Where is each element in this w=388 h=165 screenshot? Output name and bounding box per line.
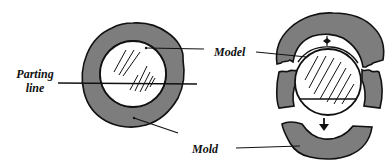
model-label: Model <box>214 45 245 59</box>
model-circle-right <box>295 49 361 115</box>
parting-line <box>58 83 197 84</box>
parting-line-label: Parting line <box>10 67 60 95</box>
parting-line-label-line2: line <box>10 81 60 95</box>
assembled-mold <box>58 23 204 133</box>
split-mold <box>236 13 384 159</box>
mold-leader-right <box>236 146 300 148</box>
bottom-mold-half <box>282 122 372 159</box>
parting-line-label-line1: Parting <box>10 67 60 81</box>
mold-label: Mold <box>192 142 218 156</box>
right-side-piece <box>362 70 382 108</box>
down-arrow-icon <box>319 118 329 131</box>
